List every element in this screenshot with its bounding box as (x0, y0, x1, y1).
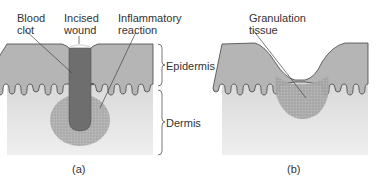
caption-b: (b) (287, 163, 300, 175)
label-incised-wound: Incised wound (64, 12, 99, 36)
label-inflammatory-reaction: Inflammatory reaction (118, 12, 182, 36)
label-granulation-tissue: Granulation tissue (249, 12, 306, 36)
blood-clot (69, 48, 91, 131)
caption-a: (a) (72, 163, 85, 175)
scab (70, 45, 90, 47)
wound-healing-diagram (0, 0, 380, 185)
panel-a (0, 30, 153, 155)
brace-epidermis (158, 44, 165, 86)
label-epidermis: Epidermis (166, 60, 215, 72)
panel-b (213, 30, 368, 155)
brace-dermis (158, 90, 165, 155)
label-blood-clot: Blood clot (17, 12, 45, 36)
layer-braces (158, 44, 165, 155)
label-dermis: Dermis (166, 117, 201, 129)
